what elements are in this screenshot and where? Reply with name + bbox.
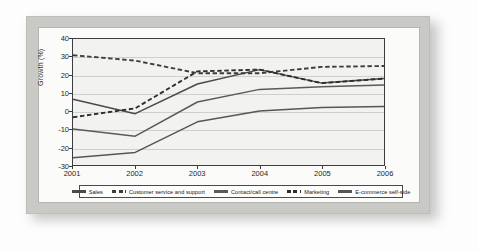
data-series-group [73, 39, 384, 165]
x-axis-tick-mark [72, 166, 73, 169]
y-axis-tick-label: 20 [41, 70, 69, 79]
legend-label: Sales [89, 189, 103, 195]
x-axis-tick-mark [385, 166, 386, 169]
legend-item: Sales [72, 189, 103, 195]
legend-item: Marketing [287, 189, 329, 195]
figure-panel: Growth (%) 403020100-10-20-30 2001200220… [39, 28, 419, 202]
legend-swatch [112, 190, 126, 192]
x-axis-tick-mark [260, 166, 261, 169]
x-axis-tick-label: 2001 [64, 169, 81, 178]
line-chart-figure: Growth (%) 403020100-10-20-30 2001200220… [39, 28, 419, 202]
x-axis-tick-label: 2005 [314, 169, 331, 178]
legend-label: Customer service and support [129, 189, 205, 195]
x-axis-tick-label: 2002 [126, 169, 143, 178]
legend-item: Contact/call centre [214, 189, 278, 195]
legend-label: E-commerce self-side [355, 189, 410, 195]
x-axis-tick-mark [322, 166, 323, 169]
y-axis-tick-label: 30 [41, 52, 69, 61]
y-axis-tick-label: -20 [41, 143, 69, 152]
legend-label: Contact/call centre [231, 189, 278, 195]
screenshot-page: Growth (%) 403020100-10-20-30 2001200220… [0, 0, 478, 251]
y-axis-tick-label: 0 [41, 107, 69, 116]
legend-swatch [287, 190, 301, 192]
x-axis-tick-mark [135, 166, 136, 169]
x-axis-tick-label: 2003 [189, 169, 206, 178]
legend-swatch [214, 190, 228, 192]
series-line [73, 107, 384, 158]
x-axis-tick-mark [197, 166, 198, 169]
legend-swatch [338, 190, 352, 192]
x-axis-tick-label: 2006 [377, 169, 394, 178]
legend-swatch [72, 190, 86, 192]
figure-mount-border: Growth (%) 403020100-10-20-30 2001200220… [26, 16, 430, 214]
y-axis-tick-label: 40 [41, 34, 69, 43]
x-axis-tick-label: 2004 [251, 169, 268, 178]
legend-item: Customer service and support [112, 189, 205, 195]
plot-area [72, 38, 385, 166]
legend-item: E-commerce self-side [338, 189, 410, 195]
chart-legend: SalesCustomer service and supportContact… [79, 185, 403, 198]
y-axis-tick-label: -10 [41, 125, 69, 134]
y-axis-tick-label: 10 [41, 88, 69, 97]
legend-label: Marketing [304, 189, 329, 195]
